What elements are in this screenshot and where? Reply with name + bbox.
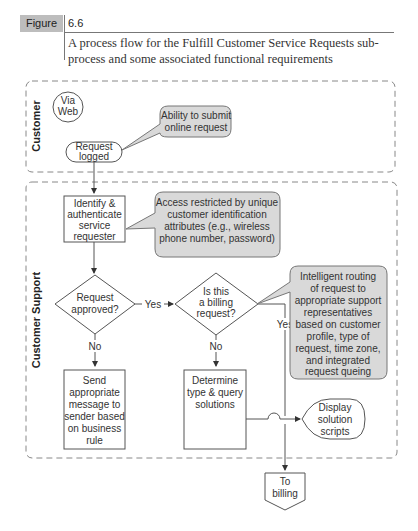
callout-access-line-2: customer identification	[167, 209, 267, 220]
edge-label-approved-yes: Yes	[145, 299, 161, 310]
lane-customer-support-label: Customer Support	[30, 271, 42, 368]
node-identify-authenticate: Identify & authenticate service requeste…	[64, 196, 125, 242]
determine-line-2: type & query	[187, 387, 243, 398]
determine-line-1: Determine	[192, 375, 239, 386]
node-to-billing: To billing	[265, 473, 305, 510]
to-billing-line-2: billing	[272, 488, 298, 499]
billing-question-line-3: request?	[197, 308, 236, 319]
decision-billing-request: Is this a billing request?	[175, 273, 258, 335]
send-message-line-4: sender based	[64, 411, 125, 422]
send-message-line-1: Send	[83, 375, 106, 386]
identify-line-4: requester	[73, 231, 116, 242]
determine-line-3: solutions	[195, 399, 234, 410]
process-flow-diagram: Customer Customer Support Yes No No Yes …	[0, 0, 418, 531]
display-line-1: Display	[319, 402, 352, 413]
callout-submit-online-line-2: online request	[165, 122, 228, 133]
node-display-scripts: Display solution scripts	[302, 399, 365, 439]
callout-routing-line-7: request, time zone,	[295, 343, 380, 354]
send-message-line-2: appropriate	[69, 387, 120, 398]
callout-routing-line-5: based on customer	[295, 319, 381, 330]
request-approved-line-2: approved?	[71, 304, 119, 315]
callout-access-restricted: Access restricted by unique customer ide…	[126, 192, 280, 257]
identify-line-1: Identify &	[74, 198, 116, 209]
callout-submit-online-line-1: Ability to submit	[161, 110, 231, 121]
identify-line-3: service	[79, 220, 111, 231]
callout-routing-line-4: representatives	[304, 307, 372, 318]
edge-label-billing-no: No	[210, 341, 223, 352]
callout-routing-line-8: and integrated	[306, 355, 370, 366]
callout-routing-line-2: of request to	[310, 283, 366, 294]
node-request-logged: Request logged	[66, 141, 122, 162]
send-message-line-3: message to	[69, 399, 121, 410]
display-line-3: scripts	[321, 426, 350, 437]
billing-question-line-1: Is this	[203, 286, 229, 297]
callout-access-line-4: phone number, password)	[159, 233, 275, 244]
callout-submit-online: Ability to submit online request	[122, 106, 231, 150]
node-send-message: Send appropriate message to sender based…	[64, 370, 125, 449]
lane-customer-label: Customer	[30, 100, 42, 152]
billing-question-line-2: a billing	[199, 297, 233, 308]
callout-access-line-1: Access restricted by unique	[156, 197, 279, 208]
send-message-line-6: rule	[86, 435, 103, 446]
send-message-line-5: on business	[68, 423, 121, 434]
callout-routing-line-3: appropriate support	[295, 295, 382, 306]
request-logged-line-2: logged	[79, 151, 109, 162]
callout-routing-line-9: request queing	[305, 366, 371, 377]
identify-line-2: authenticate	[67, 209, 122, 220]
edge-label-approved-no: No	[89, 341, 102, 352]
request-approved-line-1: Request	[76, 292, 113, 303]
via-web-line-2: Web	[58, 106, 79, 117]
node-via-web: Via Web	[53, 92, 83, 122]
callout-access-line-3: attributes (e.g., wireless	[164, 221, 270, 232]
callout-routing-line-1: Intelligent routing	[300, 271, 376, 282]
node-determine-type: Determine type & query solutions	[184, 370, 246, 449]
display-line-2: solution	[318, 414, 352, 425]
via-web-line-1: Via	[61, 95, 76, 106]
decision-request-approved: Request approved?	[55, 275, 135, 334]
to-billing-line-1: To	[280, 476, 291, 487]
callout-routing-line-6: profile, type of	[307, 331, 370, 342]
